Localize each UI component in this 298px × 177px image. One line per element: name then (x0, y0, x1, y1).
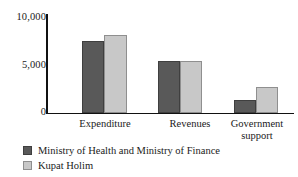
legend-swatch-icon-kupat-holim (23, 161, 32, 170)
y-axis-tick-0: 0 (0, 107, 46, 117)
bar-government-support-ministry (234, 100, 256, 113)
legend-item-ministry: Ministry of Health and Ministry of Finan… (23, 143, 220, 158)
bar-chart: 10,000 5,000 0 Expenditure Revenues Gove… (0, 0, 298, 177)
chart-legend: Ministry of Health and Ministry of Finan… (23, 143, 220, 173)
bar-government-support-kupat-holim (256, 87, 278, 113)
x-axis-label-government-support-line2: support (222, 130, 292, 142)
legend-item-kupat-holim: Kupat Holim (23, 158, 220, 173)
x-axis-label-government-support-line1: Government (222, 118, 292, 130)
bar-expenditure-ministry (82, 41, 104, 113)
y-axis-line (46, 14, 48, 113)
y-axis-tick-5000: 5,000 (0, 60, 46, 70)
x-axis-line (46, 113, 294, 115)
y-axis-tick-10000: 10,000 (0, 12, 46, 22)
legend-label-kupat-holim: Kupat Holim (38, 160, 93, 171)
bar-revenues-ministry (158, 61, 180, 113)
bar-revenues-kupat-holim (180, 61, 202, 113)
x-axis-label-expenditure: Expenditure (58, 118, 152, 130)
bar-expenditure-kupat-holim (104, 35, 127, 113)
legend-label-ministry: Ministry of Health and Ministry of Finan… (38, 145, 220, 156)
legend-swatch-icon-ministry (23, 146, 32, 155)
